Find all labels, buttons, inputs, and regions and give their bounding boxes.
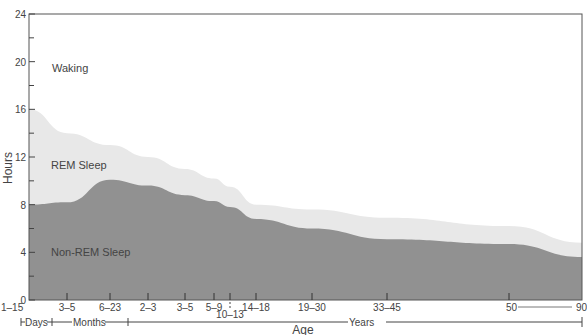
x-tick-label: 3–5 bbox=[177, 302, 194, 313]
x-tick-label: 6–23 bbox=[99, 302, 122, 313]
y-axis-title: Hours bbox=[1, 152, 15, 184]
x-tick-label: 3–5 bbox=[59, 302, 76, 313]
x-tick-label: 2–3 bbox=[140, 302, 157, 313]
rem-sleep-label: REM Sleep bbox=[51, 159, 107, 171]
y-tick-label: 4 bbox=[20, 247, 26, 258]
x-tick-label: 33–45 bbox=[373, 302, 401, 313]
x-axis-title: Age bbox=[292, 323, 314, 335]
y-tick-label: 24 bbox=[15, 9, 27, 20]
x-tick-label: 50 bbox=[506, 302, 518, 313]
y-tick-label: 16 bbox=[15, 104, 27, 115]
non-rem-sleep-label: Non-REM Sleep bbox=[51, 246, 130, 258]
x-tick-label: 19–30 bbox=[298, 302, 326, 313]
y-tick-label: 8 bbox=[20, 200, 26, 211]
group-years-label: Years bbox=[349, 317, 374, 328]
sleep-by-age-chart: 04812162024 1–153–56–232–33–55–910–1314–… bbox=[0, 0, 587, 335]
group-days-label: Days bbox=[25, 317, 48, 328]
x-tick-label: 90 bbox=[576, 302, 587, 313]
x-tick-label: 14–18 bbox=[242, 302, 270, 313]
group-months-label: Months bbox=[73, 317, 106, 328]
y-tick-label: 12 bbox=[15, 152, 27, 163]
waking-label: Waking bbox=[52, 62, 88, 74]
x-tick-label: 10–13 bbox=[216, 309, 244, 320]
x-tick-label: 1–15 bbox=[1, 302, 24, 313]
y-tick-label: 20 bbox=[15, 57, 27, 68]
